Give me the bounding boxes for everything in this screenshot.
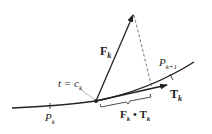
projection-brace bbox=[100, 94, 151, 107]
tangent-vector-arrow bbox=[96, 85, 167, 101]
work-diagram: Fk Tk t = ck Pk Pk+1 Fk • Tk bbox=[0, 0, 212, 134]
projection-dashed-line bbox=[134, 15, 152, 88]
param-leader-line bbox=[80, 89, 94, 99]
force-vector-arrow bbox=[96, 15, 133, 101]
tangent-label: Tk bbox=[170, 87, 182, 103]
param-label: t = ck bbox=[58, 77, 83, 92]
point-c-k bbox=[94, 99, 98, 103]
force-label: Fk bbox=[100, 44, 111, 60]
p-k-label: Pk bbox=[44, 111, 56, 126]
p-k1-label: Pk+1 bbox=[158, 56, 177, 71]
dot-product-label: Fk • Tk bbox=[120, 108, 151, 123]
